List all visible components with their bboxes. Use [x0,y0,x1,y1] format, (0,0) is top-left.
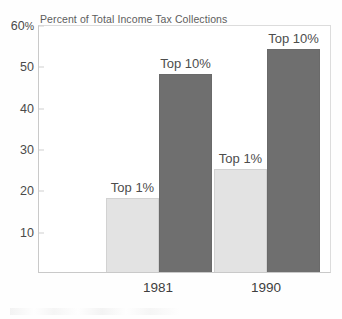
bar-1990-top-10[interactable] [267,49,320,272]
y-axis-tick-label: 60% [11,20,39,33]
bar-value-label: Top 10% [268,32,319,45]
y-axis-tick-mark [39,26,44,27]
plot-area: 60%5040302010Top 1%Top 10%Top 1%Top 10% [38,25,331,273]
y-axis-tick-label: 40 [20,102,39,115]
bar-1981-top-1[interactable] [106,198,159,272]
bar-value-label: Top 1% [219,152,262,165]
y-axis-tick-mark [39,67,44,68]
x-axis-label-1990: 1990 [251,281,281,295]
scan-artifact [10,308,210,315]
bar-chart-figure: Percent of Total Income Tax Collections … [0,0,342,319]
y-axis-tick-mark [39,191,44,192]
bar-1981-top-10[interactable] [159,74,212,272]
bar-value-label: Top 10% [160,57,211,70]
chart-title: Percent of Total Income Tax Collections [40,13,227,25]
y-axis-tick-label: 50 [20,61,39,74]
y-axis-unit-percent: % [25,20,34,32]
y-axis-tick-mark [39,232,44,233]
bar-1990-top-1[interactable] [214,169,267,272]
y-axis-tick-mark [39,108,44,109]
y-axis-tick-mark [39,150,44,151]
x-axis-label-1981: 1981 [143,281,173,295]
bar-value-label: Top 1% [111,181,154,194]
y-axis-tick-label: 20 [20,185,39,198]
y-axis-tick-label: 10 [20,226,39,239]
y-axis-tick-label: 30 [20,144,39,157]
